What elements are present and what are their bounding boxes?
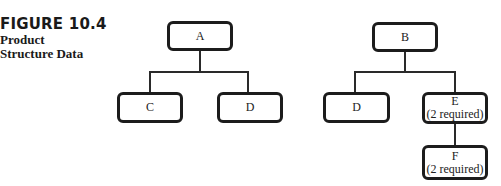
node-b: B xyxy=(372,22,438,52)
node-c: C xyxy=(117,92,183,123)
node-d-label: D xyxy=(352,101,361,114)
figure-number: FIGURE 10.4 xyxy=(0,16,107,33)
connector xyxy=(354,71,356,92)
connector xyxy=(247,71,249,92)
node-e-note: (2 required) xyxy=(427,108,484,121)
figure-title-line1: Product xyxy=(0,33,107,47)
connector xyxy=(199,51,201,72)
node-d: D xyxy=(217,92,283,123)
connector xyxy=(354,71,455,73)
node-d-label: D xyxy=(246,101,255,114)
connector xyxy=(149,71,248,73)
node-f: F (2 required) xyxy=(422,145,488,180)
node-d: D xyxy=(323,92,390,123)
node-f-label: F xyxy=(452,150,459,163)
connector xyxy=(454,124,456,145)
figure-title-line2: Structure Data xyxy=(0,47,107,61)
node-e: E (2 required) xyxy=(422,92,488,124)
node-c-label: C xyxy=(146,101,154,114)
node-b-label: B xyxy=(401,31,409,44)
connector xyxy=(454,71,456,92)
connector xyxy=(404,52,406,72)
node-a: A xyxy=(167,21,233,51)
connector xyxy=(149,71,151,92)
node-a-label: A xyxy=(196,30,205,43)
figure-caption: FIGURE 10.4 Product Structure Data xyxy=(0,16,107,61)
node-f-note: (2 required) xyxy=(427,163,484,176)
